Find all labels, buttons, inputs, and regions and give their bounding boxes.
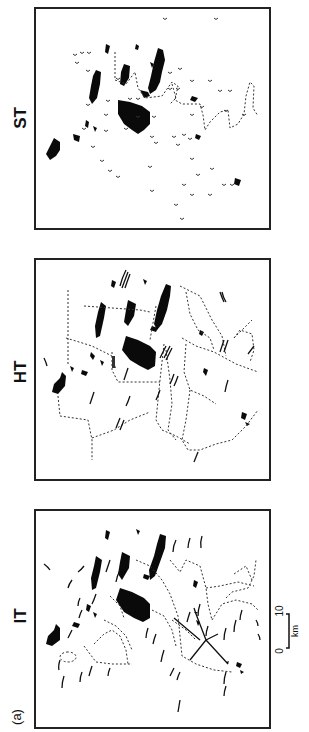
panel-ht-frame [35, 259, 270, 480]
scale-bar: 0 10 km [274, 605, 300, 654]
figure-canvas: ST HT [0, 0, 309, 732]
panel-ht-marker [112, 356, 115, 368]
panel-ht-label: HT [11, 360, 30, 383]
scale-bar-start: 0 [274, 648, 285, 654]
panel-st: ST [11, 8, 270, 229]
panel-it-frame [35, 510, 270, 728]
scale-bar-unit: km [290, 625, 300, 637]
panel-st-label: ST [11, 107, 30, 129]
panel-it-label: IT [11, 608, 30, 624]
panel-ht: HT [11, 259, 270, 480]
figure-panel-letter: (a) [9, 709, 24, 725]
panel-st-frame [35, 8, 270, 229]
scale-bar-end: 10 [274, 605, 285, 617]
panel-it: IT [11, 510, 300, 728]
scale-bar-line [286, 614, 289, 648]
